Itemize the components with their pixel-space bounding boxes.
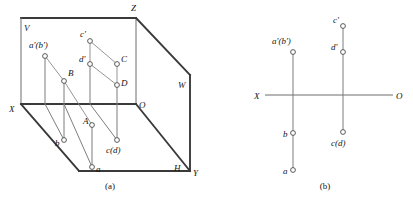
caption-b: (b) xyxy=(320,181,331,191)
label-axis-z: Z xyxy=(131,3,137,13)
proj-point-marker-a-prime-b-prime[interactable] xyxy=(291,50,296,55)
figure-root: V W H X Y Z O a'(b') c' d' C D B A b a c… xyxy=(0,0,413,206)
point-marker-d-prime[interactable] xyxy=(88,62,93,67)
point-marker-D[interactable] xyxy=(115,83,120,88)
label-point-c-prime: c' xyxy=(80,29,87,39)
label-point-a-prime-b-prime: a'(b') xyxy=(29,40,48,50)
projector-dprime-to-cd xyxy=(90,104,117,140)
point-marker-c-d[interactable] xyxy=(115,138,120,143)
label-plane-w: W xyxy=(178,80,187,90)
label-point-A: A xyxy=(82,116,89,126)
line-cprime-to-C xyxy=(90,41,117,64)
line-dprime-to-D xyxy=(90,64,117,85)
caption-a: (a) xyxy=(105,181,115,191)
label-proj-point-d-prime: d' xyxy=(331,42,339,52)
projection-diagram: X O a'(b') c' d' b a c(d) xyxy=(253,15,403,176)
point-marker-a[interactable] xyxy=(90,165,95,170)
label-point-d-prime: d' xyxy=(79,54,87,64)
point-marker-a-prime-b-prime[interactable] xyxy=(43,54,48,59)
pictorial-diagram: V W H X Y Z O a'(b') c' d' C D B A b a c… xyxy=(8,3,199,178)
point-marker-A[interactable] xyxy=(90,123,95,128)
proj-point-marker-a[interactable] xyxy=(291,168,296,173)
label-point-B: B xyxy=(68,68,74,78)
label-proj-point-a: a xyxy=(283,166,288,176)
label-point-b: b xyxy=(55,138,60,148)
technical-drawing-svg: V W H X Y Z O a'(b') c' d' C D B A b a c… xyxy=(0,0,413,206)
point-marker-C[interactable] xyxy=(115,62,120,67)
y-axis-edge xyxy=(136,104,190,171)
label-point-C: C xyxy=(121,54,128,64)
label-proj-axis-x: X xyxy=(253,91,260,101)
space-segment-cd xyxy=(90,41,117,85)
w-plane-outline xyxy=(136,18,190,171)
line-aprime-to-B xyxy=(45,56,64,81)
label-proj-point-c-prime: c' xyxy=(333,15,340,25)
label-proj-origin-o: O xyxy=(396,91,403,101)
label-plane-h: H xyxy=(173,163,181,173)
label-origin-o: O xyxy=(139,100,146,110)
label-proj-point-a-prime-b-prime: a'(b') xyxy=(272,36,291,46)
w-plane-top-edge xyxy=(136,18,190,75)
proj-point-marker-c-prime[interactable] xyxy=(341,24,346,29)
point-marker-b[interactable] xyxy=(62,138,67,143)
point-marker-B[interactable] xyxy=(62,79,67,84)
proj-point-marker-d-prime[interactable] xyxy=(341,50,346,55)
proj-point-marker-b[interactable] xyxy=(291,131,296,136)
proj-point-marker-c-d[interactable] xyxy=(341,130,346,135)
label-point-D: D xyxy=(120,78,128,88)
label-axis-x: X xyxy=(8,104,15,114)
label-point-c-d: c(d) xyxy=(106,145,121,155)
label-axis-y: Y xyxy=(193,168,199,178)
label-proj-point-b: b xyxy=(283,129,288,139)
label-point-a: a xyxy=(96,164,101,174)
point-marker-c-prime[interactable] xyxy=(88,39,93,44)
label-proj-point-c-d: c(d) xyxy=(331,138,346,148)
label-plane-v: V xyxy=(24,23,31,33)
h-plane-outline xyxy=(21,104,190,171)
